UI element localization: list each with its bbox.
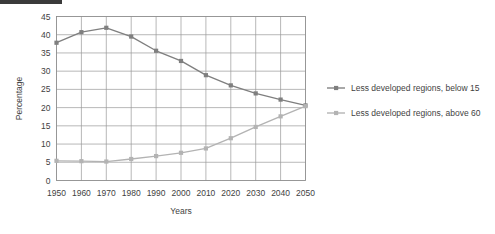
data-point-marker xyxy=(279,114,283,118)
y-tick-label: 5 xyxy=(46,157,51,167)
x-tick-label: 2000 xyxy=(172,188,191,198)
y-tick-label: 45 xyxy=(41,12,51,22)
data-point-marker xyxy=(279,97,283,101)
chart-svg: 051015202530354045 195019601970198019902… xyxy=(0,0,495,234)
data-point-marker xyxy=(303,104,307,108)
x-axis-title: Years xyxy=(170,206,191,216)
data-point-marker xyxy=(129,157,133,161)
data-point-marker xyxy=(79,30,83,34)
x-tick-label: 2020 xyxy=(221,188,240,198)
x-tick-label: 1950 xyxy=(47,188,66,198)
x-axis-tick-labels: 1950196019701980199020002010202020302040… xyxy=(47,188,315,198)
x-tick-label: 2010 xyxy=(196,188,215,198)
legend-swatch-marker xyxy=(334,86,338,90)
data-point-marker xyxy=(154,154,158,158)
data-point-marker xyxy=(129,34,133,38)
y-tick-label: 20 xyxy=(41,103,51,113)
y-tick-label: 35 xyxy=(41,48,51,58)
data-point-marker xyxy=(204,73,208,77)
gridlines-group xyxy=(57,17,306,181)
data-point-marker xyxy=(79,159,83,163)
line-chart: 051015202530354045 195019601970198019902… xyxy=(0,0,495,234)
chart-legend: Less developed regions, below 15Less dev… xyxy=(327,83,481,118)
x-tick-label: 1960 xyxy=(72,188,91,198)
legend-swatch-marker xyxy=(334,111,338,115)
data-point-marker xyxy=(104,159,108,163)
data-point-marker xyxy=(179,59,183,63)
data-point-marker xyxy=(229,136,233,140)
data-point-marker xyxy=(154,49,158,53)
data-point-marker xyxy=(54,159,58,163)
legend-label: Less developed regions, above 60 xyxy=(351,108,481,118)
x-tick-label: 2050 xyxy=(296,188,315,198)
x-tick-label: 2040 xyxy=(271,188,290,198)
y-axis-title: Percentage xyxy=(14,76,24,120)
y-tick-label: 10 xyxy=(41,139,51,149)
y-axis-tick-labels: 051015202530354045 xyxy=(41,12,51,186)
x-tick-label: 1990 xyxy=(147,188,166,198)
legend-label: Less developed regions, below 15 xyxy=(351,83,480,93)
y-tick-label: 30 xyxy=(41,66,51,76)
y-tick-label: 0 xyxy=(46,176,51,186)
data-point-marker xyxy=(179,151,183,155)
x-tick-label: 1980 xyxy=(122,188,141,198)
data-point-marker xyxy=(54,41,58,45)
data-point-marker xyxy=(104,26,108,30)
x-tick-label: 1970 xyxy=(97,188,116,198)
data-point-marker xyxy=(254,125,258,129)
y-tick-label: 15 xyxy=(41,121,51,131)
data-point-marker xyxy=(204,146,208,150)
y-tick-label: 40 xyxy=(41,30,51,40)
y-tick-label: 25 xyxy=(41,84,51,94)
x-tick-label: 2030 xyxy=(246,188,265,198)
data-point-marker xyxy=(254,91,258,95)
data-point-marker xyxy=(229,83,233,87)
